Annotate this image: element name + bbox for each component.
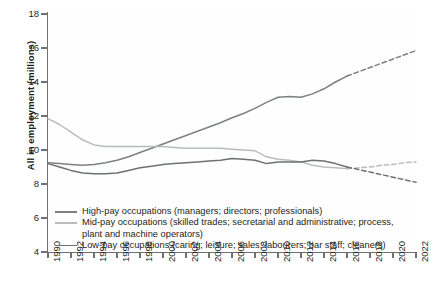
x-tick xyxy=(369,253,370,258)
y-tick-label: 4 xyxy=(0,247,39,257)
x-tick xyxy=(231,253,232,258)
x-tick xyxy=(208,253,209,258)
x-tick xyxy=(254,253,255,258)
legend-item[interactable]: Low-pay occupations (caring; leisure; sa… xyxy=(55,240,415,251)
legend-swatch-icon xyxy=(55,240,77,251)
x-tick xyxy=(277,253,278,258)
x-tick-label: 2022 xyxy=(420,241,430,262)
y-tick xyxy=(41,217,47,218)
x-tick xyxy=(139,253,140,258)
y-tick xyxy=(41,149,47,150)
x-tick xyxy=(185,253,186,258)
y-tick xyxy=(41,251,47,252)
y-tick xyxy=(41,183,47,184)
x-tick xyxy=(116,253,117,258)
x-tick xyxy=(415,253,416,258)
x-tick xyxy=(300,253,301,258)
y-tick-label: 6 xyxy=(0,213,39,223)
legend-item[interactable]: High-pay occupations (managers; director… xyxy=(55,206,415,217)
y-tick xyxy=(41,81,47,82)
x-tick xyxy=(346,253,347,258)
x-tick xyxy=(47,253,48,258)
x-tick xyxy=(323,253,324,258)
y-tick-label: 10 xyxy=(0,145,39,155)
y-tick xyxy=(41,115,47,116)
y-tick-label: 12 xyxy=(0,111,39,121)
y-tick-label: 18 xyxy=(0,9,39,19)
legend-label: High-pay occupations (managers; director… xyxy=(82,206,322,217)
x-tick xyxy=(93,253,94,258)
y-tick xyxy=(41,47,47,48)
chart-container: All in employment (millions) 46810121416… xyxy=(0,0,431,301)
chart-legend: High-pay occupations (managers; director… xyxy=(55,206,415,251)
y-tick-label: 14 xyxy=(0,77,39,87)
legend-label: Mid-pay occupations (skilled trades; sec… xyxy=(82,217,415,240)
x-tick xyxy=(70,253,71,258)
x-tick xyxy=(392,253,393,258)
y-tick xyxy=(41,13,47,14)
legend-item[interactable]: Mid-pay occupations (skilled trades; sec… xyxy=(55,217,415,240)
x-tick xyxy=(162,253,163,258)
y-tick-label: 16 xyxy=(0,43,39,53)
legend-swatch-icon xyxy=(55,206,77,217)
y-tick-label: 8 xyxy=(0,179,39,189)
legend-label: Low-pay occupations (caring; leisure; sa… xyxy=(82,240,386,251)
legend-swatch-icon xyxy=(55,217,77,228)
y-axis-line xyxy=(47,12,48,254)
